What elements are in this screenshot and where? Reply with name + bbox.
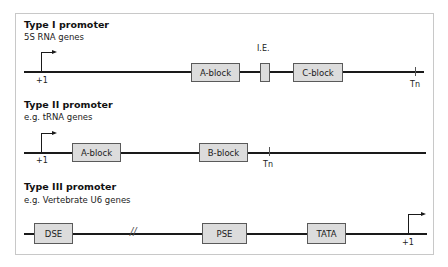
type1-terminator-tick	[415, 67, 416, 76]
type3-start-label: +1	[402, 238, 414, 247]
type1-subtitle: 5S RNA genes	[24, 32, 84, 42]
type2-b-block: B-block	[199, 143, 248, 162]
diagram-frame	[15, 13, 434, 255]
type1-c-block: C-block	[293, 63, 343, 82]
type2-terminator-label: Tn	[263, 160, 273, 169]
type1-terminator-label: Tn	[410, 80, 420, 89]
type3-dse-block: DSE	[34, 223, 73, 244]
type3-title: Type III promoter	[24, 181, 116, 192]
type3-pse-block: PSE	[202, 223, 247, 244]
type2-title: Type II promoter	[24, 99, 113, 110]
type2-a-block: A-block	[72, 143, 121, 162]
type1-ie-block	[260, 63, 270, 82]
type3-tata-block: TATA	[307, 223, 346, 244]
type1-start-label: +1	[36, 76, 48, 85]
type2-terminator-tick	[269, 147, 270, 156]
type2-start-label: +1	[36, 156, 48, 165]
type1-a-block: A-block	[191, 63, 240, 82]
type2-subtitle: e.g. tRNA genes	[24, 112, 93, 122]
type1-title: Type I promoter	[24, 19, 109, 30]
type3-subtitle: e.g. Vertebrate U6 genes	[24, 195, 131, 205]
type3-break-symbol: //	[130, 226, 137, 237]
type1-ie-label: I.E.	[257, 44, 270, 53]
